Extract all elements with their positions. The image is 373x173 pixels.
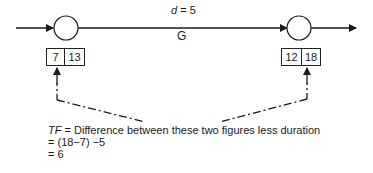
end-latest-time: 18 <box>301 49 320 65</box>
start-earliest-time: 7 <box>47 49 64 65</box>
activity-name: G <box>177 30 186 42</box>
start-node <box>54 16 78 40</box>
note-line-2: = (18−7) −5 <box>48 136 320 148</box>
pointer-line-start <box>57 100 145 122</box>
end-node <box>287 16 311 40</box>
tf-term: TF <box>48 124 61 136</box>
start-event-box: 7 13 <box>46 48 85 66</box>
note-line-1: TF = Difference between these two figure… <box>48 124 320 136</box>
end-earliest-time: 12 <box>282 49 301 65</box>
start-latest-time: 13 <box>64 49 84 65</box>
end-event-box: 12 18 <box>281 48 321 66</box>
note-line-3: = 6 <box>48 148 320 160</box>
duration-label: d = 5 <box>171 4 196 16</box>
pointer-line-end <box>220 99 307 122</box>
total-float-note: TF = Difference between these two figure… <box>48 124 320 160</box>
